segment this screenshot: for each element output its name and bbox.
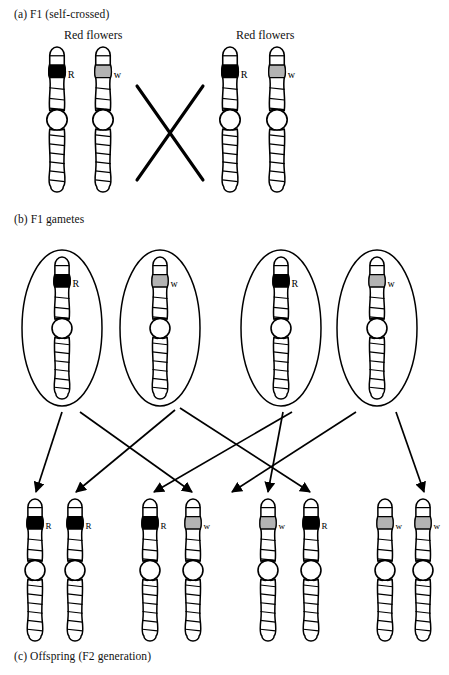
chromosome: w	[183, 499, 210, 641]
allele-label-R: R	[72, 278, 79, 289]
gamete4-to-offspring7	[232, 412, 356, 492]
gamete1-to-offspring1	[36, 412, 62, 492]
centromere	[150, 318, 170, 338]
allele-band-dominant	[273, 275, 290, 287]
centromere	[65, 560, 85, 580]
chromosome: R	[140, 499, 166, 641]
chromosome: w	[93, 47, 122, 192]
allele-label-w: w	[114, 69, 122, 80]
centromere	[52, 318, 72, 338]
allele-label-R: R	[45, 521, 51, 531]
allele-band-recessive	[369, 275, 386, 287]
allele-band-dominant	[67, 517, 84, 529]
diagram-artwork: RwRwRwRwRRRwwRww	[0, 0, 449, 675]
centromere	[267, 110, 287, 130]
allele-band-recessive	[152, 275, 169, 287]
allele-band-dominant	[54, 275, 71, 287]
self-cross-x	[137, 86, 203, 180]
parent-genotype-1: Rw	[47, 47, 122, 192]
gamete-cells-layer	[22, 250, 417, 406]
allele-label-w: w	[433, 521, 440, 531]
allele-label-w: w	[278, 521, 285, 531]
figure-canvas: (a) F1 (self-crossed) Red flowers Red fl…	[0, 0, 449, 675]
allele-label-R: R	[321, 521, 327, 531]
allele-label-R: R	[160, 521, 166, 531]
allele-label-w: w	[170, 278, 178, 289]
centromere	[140, 560, 160, 580]
allele-label-w: w	[395, 521, 402, 531]
allele-band-recessive	[94, 65, 111, 78]
centromere	[375, 560, 395, 580]
chromosome: R	[25, 499, 51, 641]
chromosome: R	[65, 499, 91, 641]
allele-band-dominant	[303, 517, 320, 529]
cross-mark-layer	[137, 86, 203, 180]
allele-label-R: R	[241, 69, 248, 80]
chromosome: w	[413, 499, 440, 641]
centromere	[93, 110, 113, 130]
chromosome: R	[301, 499, 327, 641]
allele-band-dominant	[142, 517, 159, 529]
allele-band-recessive	[185, 517, 202, 529]
allele-label-w: w	[288, 69, 296, 80]
allele-label-w: w	[387, 278, 395, 289]
gamete2-to-offspring2	[76, 410, 175, 492]
centromere	[301, 560, 321, 580]
allele-label-R: R	[85, 521, 91, 531]
centromere	[25, 560, 45, 580]
centromere	[183, 560, 203, 580]
allele-band-dominant	[27, 517, 44, 529]
allele-label-R: R	[68, 69, 75, 80]
parent-genotype-2: Rw	[220, 47, 296, 192]
allele-label-w: w	[203, 521, 210, 531]
allele-band-recessive	[268, 65, 285, 78]
centromere	[220, 110, 240, 130]
centromere	[271, 318, 291, 338]
allele-label-R: R	[291, 278, 298, 289]
centromere	[413, 560, 433, 580]
gamete3-to-offspring3	[154, 412, 292, 492]
allele-band-recessive	[260, 517, 277, 529]
chromosome: w	[375, 499, 402, 641]
allele-band-dominant	[221, 65, 238, 78]
inheritance-arrows-layer	[36, 408, 424, 492]
chromosome: R	[220, 47, 248, 192]
allele-band-recessive	[415, 517, 432, 529]
centromere	[258, 560, 278, 580]
centromere	[367, 318, 387, 338]
allele-band-dominant	[48, 65, 65, 78]
gamete4-to-offspring8	[396, 412, 424, 492]
allele-band-recessive	[377, 517, 394, 529]
chromosome: w	[258, 499, 285, 641]
chromosome: R	[47, 47, 75, 192]
chromosome: w	[267, 47, 296, 192]
gamete2-to-offspring6	[180, 408, 310, 492]
centromere	[47, 110, 67, 130]
